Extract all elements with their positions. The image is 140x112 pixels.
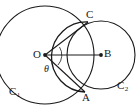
angle-arc-theta (58, 47, 62, 65)
label-point-a: A (82, 92, 90, 103)
segment-oa (45, 55, 85, 92)
segment-oc (45, 22, 88, 55)
label-angle-theta: θ (44, 64, 49, 74)
figure-canvas (0, 0, 140, 112)
label-circle-c2-main: C (117, 79, 124, 91)
geometry-figure: O B C A θ C1 C2 (0, 0, 140, 112)
label-point-b: B (104, 48, 111, 59)
label-circle-c1: C1 (9, 86, 20, 97)
label-circle-c1-sub: 1 (17, 91, 21, 99)
label-circle-c2-sub: 2 (125, 85, 129, 93)
point-o-dot (43, 53, 47, 57)
label-circle-c2: C2 (117, 80, 128, 91)
label-circle-c1-main: C (9, 85, 16, 97)
point-b-dot (99, 53, 103, 57)
lens-arc-left (51, 22, 88, 92)
label-point-c: C (86, 9, 93, 20)
label-point-o: O (33, 49, 41, 60)
